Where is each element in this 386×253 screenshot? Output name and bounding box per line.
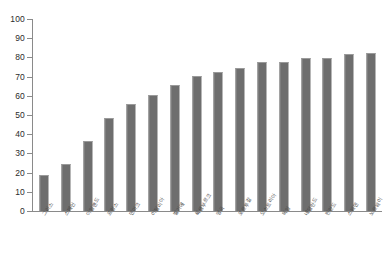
bar [192, 76, 201, 211]
bar-slot [55, 19, 77, 211]
bar-slot [77, 19, 99, 211]
bar-slot [317, 19, 339, 211]
y-axis-tick-label: 0 [1, 207, 25, 216]
y-axis-tick [27, 77, 32, 78]
x-axis-label-slot: 포르투갈 [229, 212, 251, 253]
bar [236, 68, 245, 211]
x-axis-category-labels: 그리스스페인아일랜드프랑스덴마크이탈리아벨기에룩셈부르크영국포르투갈오스트리아독… [33, 212, 382, 253]
bar-slot [98, 19, 120, 211]
x-axis-label-slot: 네덜란드 [295, 212, 317, 253]
bar-slot [338, 19, 360, 211]
y-axis-tick-label: 10 [1, 188, 25, 197]
bar-series [33, 19, 382, 211]
y-axis-tick [27, 38, 32, 39]
bar-slot [360, 19, 382, 211]
x-axis-label-slot: 룩셈부르크 [186, 212, 208, 253]
y-axis-tick [27, 153, 32, 154]
bar-slot [295, 19, 317, 211]
bar [83, 141, 92, 211]
x-axis-label-slot: 그리스 [33, 212, 55, 253]
bar [279, 62, 288, 211]
x-axis-label-slot: 독일 [273, 212, 295, 253]
y-axis-tick-label: 30 [1, 149, 25, 158]
bar [127, 104, 136, 211]
y-axis-tick-labels: 0102030405060708090100 [0, 0, 25, 253]
x-axis-label-slot: 스페인 [55, 212, 77, 253]
x-axis-label-slot: 아일랜드 [77, 212, 99, 253]
bar [323, 58, 332, 211]
y-axis-tick-label: 100 [1, 15, 25, 24]
x-axis-label-slot: 프랑스 [98, 212, 120, 253]
bar-slot [142, 19, 164, 211]
y-axis-tick-label: 40 [1, 130, 25, 139]
y-axis-tick [27, 57, 32, 58]
y-axis-tick [27, 211, 32, 212]
bar-slot [164, 19, 186, 211]
y-axis-tick-label: 90 [1, 34, 25, 43]
y-axis-tick-label: 50 [1, 111, 25, 120]
x-axis-label-slot: 이탈리아 [142, 212, 164, 253]
bar-slot [33, 19, 55, 211]
y-axis-tick [27, 19, 32, 20]
bar [214, 72, 223, 211]
bar-slot [273, 19, 295, 211]
y-axis-tick-label: 80 [1, 53, 25, 62]
x-axis-label-slot: 벨기에 [164, 212, 186, 253]
bar-chart: 0102030405060708090100 그리스스페인아일랜드프랑스덴마크이… [0, 0, 386, 253]
y-axis-tick-label: 70 [1, 73, 25, 82]
bar [345, 54, 354, 211]
x-axis-label-slot: 덴마크 [120, 212, 142, 253]
y-axis-tick-label: 60 [1, 92, 25, 101]
bar-slot [229, 19, 251, 211]
x-axis-category-label: 영국 [216, 206, 226, 217]
bar-slot [251, 19, 273, 211]
bar [301, 58, 310, 211]
y-axis-tick [27, 96, 32, 97]
bar-slot [208, 19, 230, 211]
y-axis-tick [27, 173, 32, 174]
bar [105, 118, 114, 211]
bar-slot [186, 19, 208, 211]
x-axis-label-slot: 스웨덴 [338, 212, 360, 253]
x-axis-label-slot: 노르웨이 [360, 212, 382, 253]
bar [170, 85, 179, 211]
y-axis-tick [27, 134, 32, 135]
x-axis-label-slot: 핀란드 [317, 212, 339, 253]
y-axis-tick-label: 20 [1, 169, 25, 178]
bar [258, 62, 267, 211]
y-axis-tick [27, 115, 32, 116]
y-axis-tick [27, 192, 32, 193]
x-axis-label-slot: 영국 [208, 212, 230, 253]
bar-slot [120, 19, 142, 211]
bar [148, 95, 157, 211]
x-axis-label-slot: 오스트리아 [251, 212, 273, 253]
bar [367, 53, 376, 211]
